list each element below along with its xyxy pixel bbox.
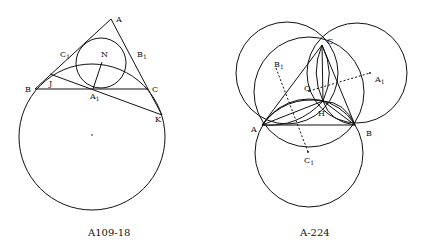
label-n: N <box>101 50 108 59</box>
label-k: K <box>155 115 162 124</box>
figure-a-224: C A B O H B1 A1 C1 A-224 <box>236 22 407 238</box>
figure-a109-18: A B C C1 B1 A1 N J K A109-18 <box>19 15 165 238</box>
diagram-canvas: A B C C1 B1 A1 N J K A109-18 <box>0 0 435 250</box>
large-circle-center <box>91 134 93 136</box>
caption-a-224: A-224 <box>299 227 330 238</box>
label-c: C <box>327 37 333 46</box>
label-b: B <box>25 85 31 94</box>
label-a1: A1 <box>89 92 100 102</box>
label-a: A <box>250 125 257 134</box>
label-c1: C1 <box>304 156 314 166</box>
label-a: A <box>115 15 122 24</box>
segment-c-h <box>322 45 323 101</box>
label-b1: B1 <box>137 50 147 60</box>
label-j: J <box>48 79 52 88</box>
label-a1: A1 <box>374 75 385 85</box>
label-c1: C1 <box>60 50 70 60</box>
label-h: H <box>318 109 325 118</box>
label-o: O <box>304 84 311 93</box>
incircle <box>76 38 126 88</box>
label-c: C <box>152 85 158 94</box>
point-c1 <box>307 151 309 153</box>
segment-j-k <box>50 74 162 115</box>
label-b: B <box>366 129 372 138</box>
segment-n-a1 <box>93 62 102 89</box>
point-a1 <box>369 72 371 74</box>
label-b1: B1 <box>274 60 284 70</box>
caption-a109-18: A109-18 <box>87 227 130 238</box>
